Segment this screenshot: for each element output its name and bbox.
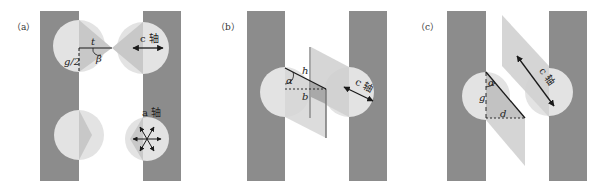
panel-c-label: （c）	[416, 22, 439, 32]
label-alpha: α	[286, 75, 293, 86]
panel-a: （a） t β g/2 c 轴	[12, 11, 181, 181]
panel-c: （c） α g d c 轴	[416, 11, 587, 181]
panel-b-label: （b）	[216, 22, 240, 32]
label-c-axis: c 轴	[140, 32, 159, 44]
panel-b: （b） h α b c 轴	[216, 11, 387, 181]
label-a-axis: a 轴	[142, 106, 161, 118]
label-h: h	[302, 65, 308, 76]
crystal-geometry-figure: （a） t β g/2 c 轴	[0, 0, 598, 189]
panel-a-label: （a）	[12, 22, 35, 32]
label-b: b	[302, 91, 308, 102]
label-beta: β	[95, 53, 102, 64]
label-d: d	[500, 108, 506, 119]
label-g: g	[479, 92, 485, 103]
label-g-half: g/2	[64, 56, 80, 67]
label-alpha: α	[488, 77, 495, 88]
